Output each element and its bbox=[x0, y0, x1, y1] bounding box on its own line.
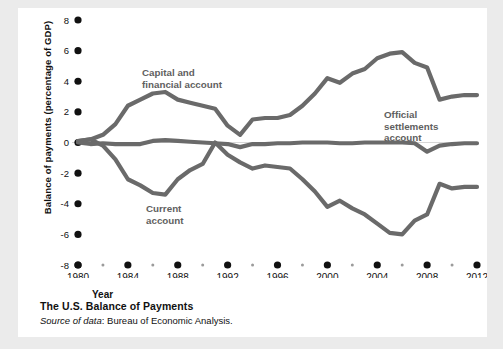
chart-plot-area: Balance of payments (percentage of GDP) … bbox=[18, 8, 487, 278]
x-tick-label: 2008 bbox=[416, 272, 439, 278]
y-tick-label: -6 bbox=[61, 229, 69, 240]
y-tick-label: -8 bbox=[61, 260, 69, 271]
source-lead: Source of data bbox=[40, 315, 102, 326]
series-annotation-label: financial account bbox=[142, 79, 223, 90]
x-tick-label: 1980 bbox=[67, 272, 90, 278]
y-axis-title: Balance of payments (percentage of GDP) bbox=[42, 13, 53, 223]
x-tick-label: 2004 bbox=[366, 272, 389, 278]
data-series-lines bbox=[78, 52, 477, 234]
x-tick-label: 1996 bbox=[266, 272, 289, 278]
series-annotation-label: Official bbox=[384, 109, 417, 120]
y-tick-label: -4 bbox=[61, 198, 69, 209]
x-tick-label: 1988 bbox=[167, 272, 190, 278]
figure-card: Balance of payments (percentage of GDP) … bbox=[18, 8, 487, 337]
series-annotation-label: Current bbox=[146, 203, 182, 214]
caption-source: Source of data: Bureau of Economic Analy… bbox=[40, 315, 470, 326]
x-tick-label: 1992 bbox=[217, 272, 240, 278]
x-tick-label: 2000 bbox=[316, 272, 339, 278]
series-annotation-label: settlements bbox=[384, 121, 439, 132]
x-tick-label: 2012 bbox=[466, 272, 487, 278]
x-tick-label: 1984 bbox=[117, 272, 140, 278]
figure-caption: The U.S. Balance of Payments Source of d… bbox=[40, 300, 470, 326]
series-annotation-label: Capital and bbox=[142, 67, 195, 78]
x-axis-ticks: 198019841988199219962000200420082012 bbox=[67, 261, 487, 278]
y-tick-label: 8 bbox=[64, 15, 69, 26]
y-tick-label: 2 bbox=[64, 106, 69, 117]
balance-of-payments-chart: 86420-2-4-6-8 19801984198819921996200020… bbox=[18, 8, 487, 278]
source-text: : Bureau of Economic Analysis. bbox=[102, 315, 233, 326]
y-tick-label: 0 bbox=[64, 137, 69, 148]
y-tick-label: 4 bbox=[64, 76, 69, 87]
x-axis-title: Year bbox=[92, 289, 113, 300]
series-annotations: Capital andfinancial accountCurrentaccou… bbox=[142, 67, 439, 226]
series-annotation-label: account bbox=[146, 215, 184, 226]
series-line bbox=[78, 139, 477, 234]
series-annotation-label: account bbox=[384, 132, 422, 143]
caption-title: The U.S. Balance of Payments bbox=[40, 300, 470, 312]
y-tick-label: 6 bbox=[64, 45, 69, 56]
y-tick-label: -2 bbox=[61, 168, 69, 179]
